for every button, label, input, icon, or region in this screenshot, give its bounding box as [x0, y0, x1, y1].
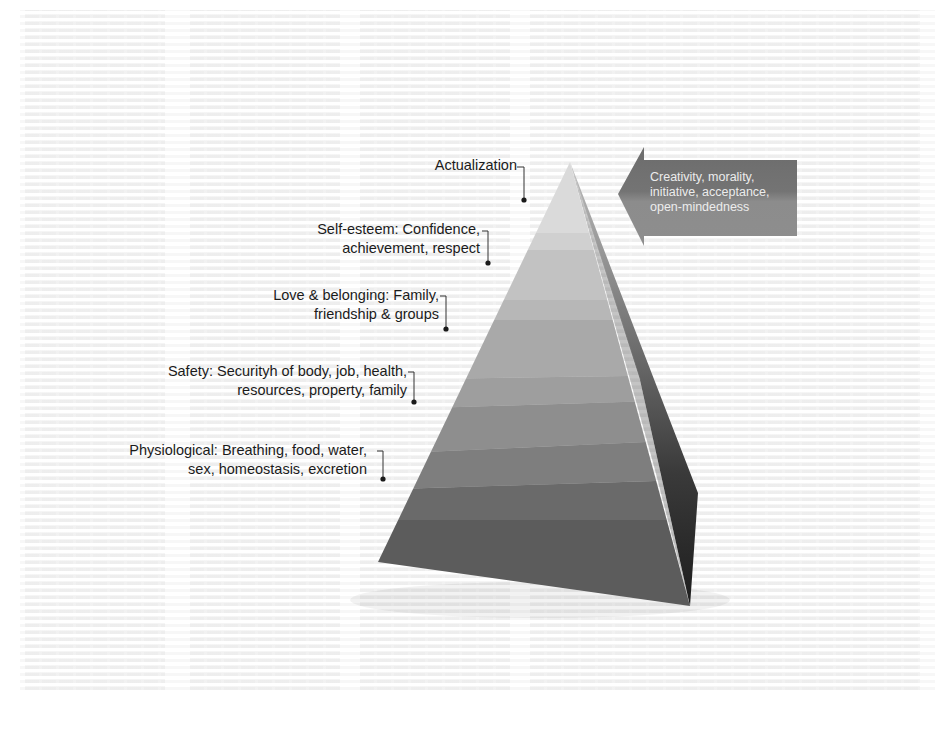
leader-safety	[408, 372, 414, 401]
band-physiological-upper	[360, 480, 690, 520]
dot-self-esteem	[485, 260, 490, 265]
pyramid-diagram	[0, 0, 950, 729]
dot-physiological	[380, 476, 385, 481]
label-physiological-line-1: Physiological: Breathing, food, water,	[129, 441, 367, 460]
label-self-esteem-line-1: Self-esteem: Confidence,	[317, 220, 480, 239]
label-actualization: Actualization	[435, 156, 517, 175]
dot-safety	[411, 399, 416, 404]
label-safety-line-2: resources, property, family	[168, 381, 407, 400]
callout-line-3: open-mindedness	[650, 200, 798, 215]
leader-self-esteem	[482, 231, 488, 262]
label-safety: Safety: Securityh of body, job, health, …	[168, 362, 407, 400]
label-safety-line-1: Safety: Securityh of body, job, health,	[168, 362, 407, 381]
dot-love-belonging	[443, 326, 448, 331]
callout-line-1: Creativity, morality,	[650, 170, 798, 185]
leader-physiological	[377, 451, 383, 478]
leader-actualization	[517, 167, 524, 199]
band-actualization-transition	[460, 233, 640, 250]
label-love-belonging: Love & belonging: Family, friendship & g…	[273, 286, 439, 324]
label-physiological: Physiological: Breathing, food, water, s…	[129, 441, 367, 479]
callout-arrow-text: Creativity, morality, initiative, accept…	[650, 170, 798, 215]
callout-line-2: initiative, acceptance,	[650, 185, 798, 200]
label-self-esteem-line-2: achievement, respect	[317, 239, 480, 258]
label-love-belonging-line-1: Love & belonging: Family,	[273, 286, 439, 305]
leader-love-belonging	[440, 296, 446, 328]
label-love-belonging-line-2: friendship & groups	[273, 305, 439, 324]
label-physiological-line-2: sex, homeostasis, excretion	[129, 460, 367, 479]
label-actualization-line-1: Actualization	[435, 156, 517, 175]
label-self-esteem: Self-esteem: Confidence, achievement, re…	[317, 220, 480, 258]
dot-actualization	[521, 197, 526, 202]
